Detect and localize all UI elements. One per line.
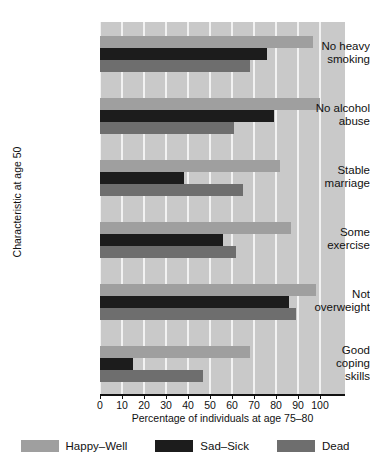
bar-sad-sick-some-exercise bbox=[100, 234, 223, 246]
bar-dead-not-overweight bbox=[100, 308, 296, 320]
bar-sad-sick-stable-marriage bbox=[100, 172, 184, 184]
y-category-label-not-overweight: Notoverweight bbox=[278, 288, 370, 314]
chart-legend: Happy–WellSad–SickDead bbox=[0, 440, 370, 452]
bar-dead-no-heavy-smoking bbox=[100, 60, 250, 72]
plot-area bbox=[100, 22, 345, 394]
bar-sad-sick-good-coping-skills bbox=[100, 358, 133, 370]
bar-happy-well-good-coping-skills bbox=[100, 346, 250, 358]
legend-label: Dead bbox=[322, 440, 350, 452]
legend-label: Happy–Well bbox=[66, 440, 128, 452]
legend-item-sad-sick[interactable]: Sad–Sick bbox=[155, 440, 249, 452]
bar-sad-sick-not-overweight bbox=[100, 296, 289, 308]
bar-dead-good-coping-skills bbox=[100, 370, 203, 382]
y-category-label-line: No alcohol bbox=[278, 102, 370, 115]
legend-swatch-icon bbox=[21, 440, 59, 452]
bar-dead-stable-marriage bbox=[100, 184, 243, 196]
y-category-label-line: Some bbox=[278, 226, 370, 239]
bar-happy-well-stable-marriage bbox=[100, 160, 280, 172]
bar-sad-sick-no-heavy-smoking bbox=[100, 48, 267, 60]
y-category-label-no-alcohol-abuse: No alcoholabuse bbox=[278, 102, 370, 128]
legend-item-dead[interactable]: Dead bbox=[277, 440, 350, 452]
x-tick-label-100: 100 bbox=[305, 399, 335, 411]
legend-swatch-icon bbox=[277, 440, 315, 452]
y-axis-label: Characteristic at age 50 bbox=[11, 107, 23, 297]
x-axis-label: Percentage of individuals at age 75–80 bbox=[100, 412, 345, 424]
bar-happy-well-some-exercise bbox=[100, 222, 291, 234]
y-category-label-line: skills bbox=[278, 370, 370, 383]
y-category-label-line: coping bbox=[278, 357, 370, 370]
y-category-label-line: exercise bbox=[278, 239, 370, 252]
bar-dead-some-exercise bbox=[100, 246, 236, 258]
y-category-label-line: Stable bbox=[278, 164, 370, 177]
x-axis-line bbox=[100, 394, 345, 396]
y-category-label-line: Good bbox=[278, 344, 370, 357]
bar-chart-figure: 0102030405060708090100 Percentage of ind… bbox=[0, 0, 370, 470]
y-category-label-line: smoking bbox=[278, 53, 370, 66]
y-category-label-some-exercise: Someexercise bbox=[278, 226, 370, 252]
y-category-label-no-heavy-smoking: No heavysmoking bbox=[278, 40, 370, 66]
bar-dead-no-alcohol-abuse bbox=[100, 122, 234, 134]
y-category-label-line: No heavy bbox=[278, 40, 370, 53]
y-category-label-line: abuse bbox=[278, 115, 370, 128]
legend-swatch-icon bbox=[155, 440, 193, 452]
legend-item-happy-well[interactable]: Happy–Well bbox=[21, 440, 128, 452]
legend-label: Sad–Sick bbox=[200, 440, 249, 452]
y-category-label-stable-marriage: Stablemarriage bbox=[278, 164, 370, 190]
y-category-label-line: Not bbox=[278, 288, 370, 301]
y-category-label-good-coping-skills: Goodcopingskills bbox=[278, 344, 370, 383]
y-category-label-line: overweight bbox=[278, 301, 370, 314]
bar-sad-sick-no-alcohol-abuse bbox=[100, 110, 274, 122]
y-category-label-line: marriage bbox=[278, 177, 370, 190]
